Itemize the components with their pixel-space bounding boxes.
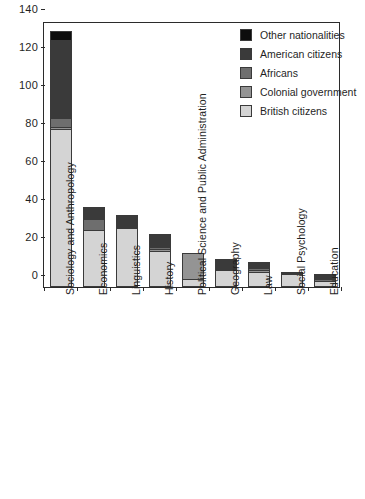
legend-label: British citizens	[260, 105, 327, 117]
x-axis-label: Linguistics	[130, 245, 142, 295]
y-axis-tick-label: 120	[19, 41, 44, 53]
x-axis-label: Social Psychology	[295, 208, 307, 295]
x-axis-tick	[143, 287, 144, 291]
x-axis-label: Political Science and Public Administrat…	[196, 93, 208, 295]
legend-item[interactable]: Africans	[240, 64, 356, 81]
x-axis-label: Law	[262, 275, 274, 295]
x-axis-tick	[209, 287, 210, 291]
bar-segment	[116, 215, 138, 228]
legend-swatch-icon	[240, 105, 252, 117]
legend-item[interactable]: American citizens	[240, 45, 356, 62]
legend-label: Other nationalities	[260, 29, 345, 41]
bar-segment	[83, 219, 105, 230]
legend-swatch-icon	[240, 29, 252, 41]
bar-segment	[83, 207, 105, 218]
x-axis-label: History	[163, 262, 175, 295]
x-axis-tick	[77, 287, 78, 291]
legend-label: American citizens	[260, 48, 342, 60]
y-axis-tick-label: 140	[19, 3, 44, 15]
bar-segment	[50, 118, 72, 128]
y-axis-tick-label: 40	[25, 193, 44, 205]
bar-segment	[149, 234, 171, 247]
legend-item[interactable]: British citizens	[240, 102, 356, 119]
x-axis-tick	[110, 287, 111, 291]
y-axis-tick-label: 20	[25, 231, 44, 243]
x-axis-tick	[275, 287, 276, 291]
legend-label: Colonial government	[260, 86, 356, 98]
legend-swatch-icon	[240, 48, 252, 60]
chart-legend: Other nationalitiesAmerican citizensAfri…	[240, 26, 356, 121]
x-axis-label: Sociology and Anthropology	[64, 162, 76, 295]
y-axis-tick-label: 80	[25, 117, 44, 129]
legend-swatch-icon	[240, 67, 252, 79]
x-axis-tick	[176, 287, 177, 291]
x-axis-label: Geography	[229, 242, 241, 295]
y-axis-tick-label: 100	[19, 79, 44, 91]
x-axis-tick	[341, 287, 342, 291]
x-axis-label: Economics	[97, 243, 109, 295]
y-axis-tick-label: 60	[25, 155, 44, 167]
y-axis-tick-label: 0	[32, 269, 44, 281]
legend-label: Africans	[260, 67, 298, 79]
bar-segment	[50, 31, 72, 41]
legend-swatch-icon	[240, 86, 252, 98]
x-axis-tick	[44, 287, 45, 291]
x-axis-label: Education	[328, 247, 340, 295]
x-axis-tick	[242, 287, 243, 291]
legend-item[interactable]: Colonial government	[240, 83, 356, 100]
legend-item[interactable]: Other nationalities	[240, 26, 356, 43]
chart-container: 020406080100120140 Other nationalitiesAm…	[0, 0, 365, 499]
bar-segment	[50, 40, 72, 118]
x-axis-tick	[308, 287, 309, 291]
